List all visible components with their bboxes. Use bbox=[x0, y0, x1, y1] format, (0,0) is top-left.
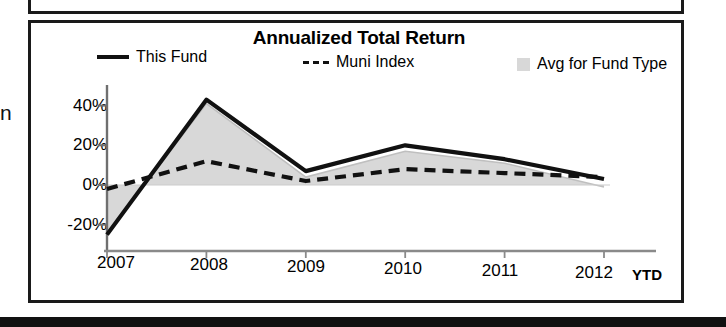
bottom-black-rule bbox=[0, 317, 726, 327]
plot-area bbox=[31, 23, 681, 300]
annualized-total-return-chart-card: Annualized Total Return This Fund Muni I… bbox=[28, 20, 684, 303]
clipped-panel-above bbox=[28, 0, 684, 14]
clipped-margin-text: n bbox=[0, 100, 12, 126]
